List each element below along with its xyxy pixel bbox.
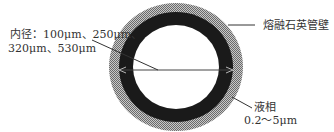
inner-diameter-label-2: 320μm、530μm: [8, 42, 96, 55]
inner-diameter-label-1: 内径：100μm、250μm、: [10, 28, 142, 41]
bore: [133, 25, 219, 109]
leader-liquid-phase: [232, 97, 252, 108]
liquid-phase-label: 液相: [254, 101, 276, 114]
film-thickness-label: 0.2～5μm: [244, 114, 297, 127]
tube-wall-label: 熔融石英管壁: [263, 19, 329, 32]
